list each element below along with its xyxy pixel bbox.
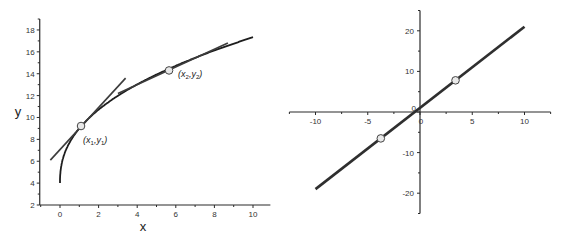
x-tick-label: 5 <box>470 117 475 126</box>
x-tick-label: 10 <box>520 117 529 126</box>
chart-right-linear-line: -10-50510-20-1001020 <box>0 0 562 240</box>
x-tick-label: -10 <box>310 117 322 126</box>
y-tick-label: -20 <box>402 189 414 198</box>
y-tick-label: 10 <box>405 67 414 76</box>
point-marker <box>377 135 385 143</box>
x-tick-label: -5 <box>364 117 372 126</box>
point-marker <box>452 77 460 85</box>
y-tick-label: 20 <box>405 27 414 36</box>
y-tick-label: -10 <box>402 149 414 158</box>
x-tick-label: 0 <box>419 117 424 126</box>
figure: 246810121416180246810xy(x1,y1)(x2,y2) -1… <box>0 0 562 240</box>
